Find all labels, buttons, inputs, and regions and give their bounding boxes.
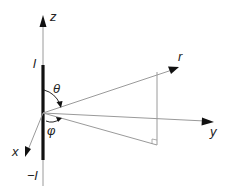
dipole-diagram: z l θ φ r y x −l: [0, 0, 226, 189]
x-arrow-icon: [25, 146, 31, 157]
bottom-l-label: −l: [27, 168, 39, 183]
y-label: y: [209, 124, 218, 139]
r-arrow-icon: [168, 67, 179, 75]
theta-label: θ: [53, 81, 60, 96]
x-label: x: [11, 144, 19, 159]
r-vector: [43, 70, 172, 113]
phi-label: φ: [47, 123, 56, 138]
top-l-label: l: [33, 56, 37, 71]
x-axis: [28, 113, 43, 150]
r-label: r: [178, 49, 183, 64]
z-arrow-icon: [40, 15, 47, 27]
right-angle-marker: [152, 139, 157, 144]
z-label: z: [49, 9, 57, 24]
